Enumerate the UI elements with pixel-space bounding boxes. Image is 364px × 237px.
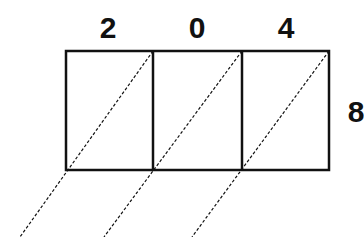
top-digit-2: 0 (189, 13, 206, 43)
diagonal-2 (104, 51, 242, 237)
diagonal-3 (192, 51, 329, 237)
top-digit-3: 4 (278, 13, 295, 43)
diagonal-1 (20, 51, 153, 237)
top-digit-1: 2 (100, 13, 117, 43)
lattice-box (66, 51, 329, 170)
side-digit: 8 (348, 97, 364, 127)
